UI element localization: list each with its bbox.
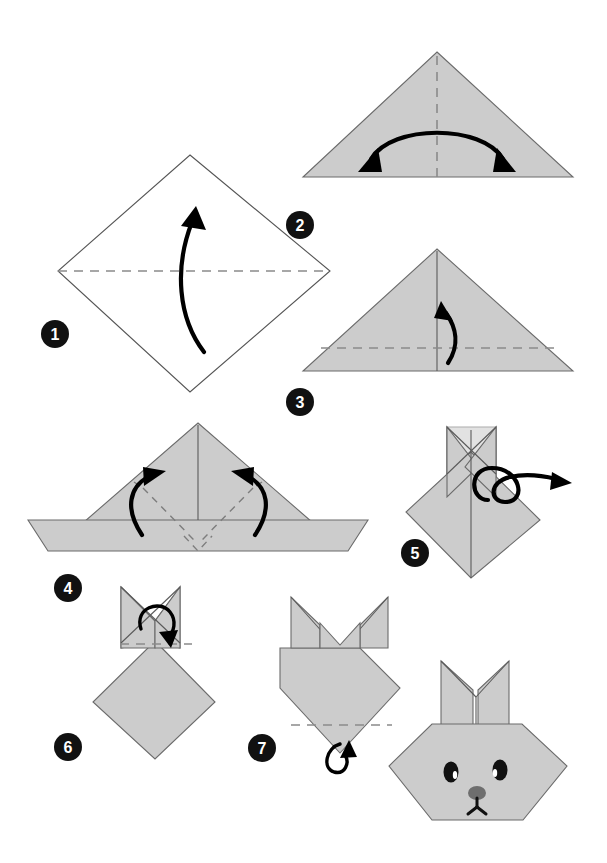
bunny-right-ear <box>478 661 509 725</box>
step-3-badge-number: 3 <box>296 394 305 411</box>
step-3-badge: 3 <box>286 388 314 416</box>
step-7-paper-head <box>280 648 400 753</box>
step-8-finished-bunny <box>389 661 567 820</box>
step-7-ear-notch-fill <box>320 623 360 648</box>
step-2-badge: 2 <box>286 211 314 239</box>
step-7-panel: 7 <box>248 597 400 772</box>
step-4-badge: 4 <box>54 574 82 602</box>
step-1-paper-square <box>58 155 330 392</box>
step-2-paper-triangle <box>303 52 573 177</box>
step-5-badge-number: 5 <box>411 545 420 562</box>
step-3-panel: 3 <box>286 249 573 416</box>
step-4-bottom-band <box>28 520 368 551</box>
bunny-left-ear <box>441 661 473 725</box>
step-7-right-ear <box>360 597 388 648</box>
step-1-panel: 1 <box>41 155 330 392</box>
step-2-badge-number: 2 <box>296 217 305 234</box>
bunny-right-eye-glint <box>493 769 497 777</box>
origami-instruction-sheet: 1 2 3 <box>0 0 607 863</box>
step-5-panel: 5 <box>401 427 572 578</box>
step-4-panel: 4 <box>28 423 368 602</box>
bunny-left-eye-glint <box>453 771 457 779</box>
step-2-panel: 2 <box>286 52 573 239</box>
step-6-badge-number: 6 <box>64 739 73 756</box>
step-1-badge: 1 <box>41 320 69 348</box>
instruction-diagram-canvas: 1 2 3 <box>0 0 607 863</box>
step-7-badge: 7 <box>248 734 276 762</box>
step-1-badge-number: 1 <box>51 326 60 343</box>
step-6-panel: 6 <box>54 587 215 761</box>
step-7-badge-number: 7 <box>258 740 267 757</box>
step-4-badge-number: 4 <box>64 580 73 597</box>
step-5-flip-over-arrow-head <box>550 472 572 490</box>
step-5-badge: 5 <box>401 539 429 567</box>
step-6-badge: 6 <box>54 733 82 761</box>
step-6-paper-body <box>93 641 215 759</box>
step-7-left-ear <box>291 597 320 648</box>
